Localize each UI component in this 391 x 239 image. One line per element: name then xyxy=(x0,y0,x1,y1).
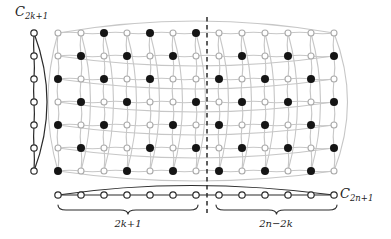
black-vertex xyxy=(54,75,62,83)
bottom-cycle-vertex xyxy=(170,192,176,198)
black-vertex xyxy=(123,52,131,60)
grid-vertex xyxy=(262,99,268,105)
braces xyxy=(58,205,337,215)
black-vertex xyxy=(238,98,246,106)
black-vertex xyxy=(307,167,315,175)
black-vertex xyxy=(146,75,154,83)
grid-vertex xyxy=(216,145,222,151)
grid-vertex xyxy=(239,122,245,128)
grid-vertex xyxy=(216,30,222,36)
grid-vertex xyxy=(193,168,199,174)
grid-vertex xyxy=(147,99,153,105)
grid-vertex xyxy=(216,53,222,59)
grid-vertex xyxy=(147,122,153,128)
bottom-cycle-label-subscript: 2n+1 xyxy=(350,193,373,203)
left-cycle-vertex xyxy=(31,76,37,82)
grid-vertex xyxy=(101,53,107,59)
bottom-cycle-vertex xyxy=(331,192,337,198)
bottom-cycle-vertex xyxy=(285,192,291,198)
grid-vertex xyxy=(331,30,337,36)
bottom-cycle-label-base: C xyxy=(340,186,350,201)
black-vertex xyxy=(330,52,338,60)
black-vertex xyxy=(54,167,62,175)
black-vertex xyxy=(284,98,292,106)
black-vertex xyxy=(238,144,246,152)
bottom-cycle-vertex xyxy=(216,192,222,198)
right-brace xyxy=(216,205,337,215)
black-vertex xyxy=(146,144,154,152)
bottom-cycle-vertex xyxy=(124,192,130,198)
black-vertex xyxy=(192,144,200,152)
grid-vertex xyxy=(193,76,199,82)
black-vertex xyxy=(146,29,154,37)
grid-vertex xyxy=(55,30,61,36)
bottom-cycle-vertex xyxy=(262,192,268,198)
grid-vertex xyxy=(55,99,61,105)
bottom-cycle-vertex xyxy=(55,192,61,198)
black-vertex xyxy=(307,75,315,83)
left-cycle-label-subscript: 2k+1 xyxy=(25,11,48,21)
grid-vertex xyxy=(170,76,176,82)
left-cycle-vertex xyxy=(31,122,37,128)
grid-vertex xyxy=(239,168,245,174)
grid-vertex xyxy=(193,53,199,59)
bottom-cycle-vertex xyxy=(147,192,153,198)
black-vertex xyxy=(54,121,62,129)
grid-vertex xyxy=(124,122,130,128)
grid-vertex xyxy=(147,53,153,59)
black-vertex xyxy=(284,52,292,60)
grid-vertex xyxy=(308,53,314,59)
grid-vertex xyxy=(308,30,314,36)
black-vertex xyxy=(238,52,246,60)
black-vertex xyxy=(100,75,108,83)
black-vertex xyxy=(77,144,85,152)
grid-vertex xyxy=(216,99,222,105)
left-cycle-vertex xyxy=(31,30,37,36)
grid-vertex xyxy=(55,53,61,59)
grid-vertex xyxy=(55,145,61,151)
black-vertex xyxy=(100,121,108,129)
grid-vertex xyxy=(308,99,314,105)
black-vertex xyxy=(169,167,177,175)
black-vertex xyxy=(123,98,131,106)
black-vertex xyxy=(284,144,292,152)
grid-vertex xyxy=(262,53,268,59)
black-vertex xyxy=(330,98,338,106)
left-cycle-vertex xyxy=(31,168,37,174)
grid-vertex xyxy=(124,30,130,36)
bottom-cycle-vertex xyxy=(101,192,107,198)
black-vertex xyxy=(192,98,200,106)
black-vertex xyxy=(77,98,85,106)
bottom-cycle-vertex xyxy=(239,192,245,198)
grid-vertex xyxy=(308,145,314,151)
bottom-cycle-vertex xyxy=(193,192,199,198)
grid-vertex xyxy=(239,30,245,36)
grid-vertex xyxy=(262,30,268,36)
grid-vertex xyxy=(331,76,337,82)
grid-vertex xyxy=(78,168,84,174)
grid-vertex xyxy=(170,145,176,151)
grid-vertex xyxy=(170,99,176,105)
figure-canvas: C2k+1 C2n+1 2k+1 2n−2k xyxy=(0,0,391,239)
grid-vertex xyxy=(147,168,153,174)
black-vertex xyxy=(77,52,85,60)
bottom-cycle-label: C2n+1 xyxy=(340,187,373,203)
bottom-cycle-vertex xyxy=(78,192,84,198)
grid-vertex xyxy=(285,30,291,36)
grid-vertex xyxy=(124,145,130,151)
grid-vertex xyxy=(78,76,84,82)
left-cycle-label: C2k+1 xyxy=(15,5,48,21)
black-vertex xyxy=(261,167,269,175)
grid-vertex xyxy=(193,122,199,128)
left-cycle-vertex xyxy=(31,53,37,59)
left-brace xyxy=(58,205,198,215)
grid-vertex xyxy=(170,30,176,36)
grid-vertex xyxy=(78,122,84,128)
bottom-cycle-vertex xyxy=(308,192,314,198)
black-vertex xyxy=(192,29,200,37)
grid-vertex xyxy=(101,168,107,174)
black-vertex xyxy=(307,121,315,129)
grid-vertex xyxy=(101,99,107,105)
grid-vertex xyxy=(262,145,268,151)
black-vertex xyxy=(261,75,269,83)
